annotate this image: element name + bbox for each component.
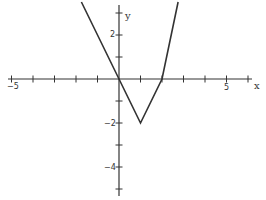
x-axis-label: x xyxy=(254,80,260,91)
y-axis-label: y xyxy=(124,10,131,21)
y-tick-label-2: 2 xyxy=(110,30,115,39)
y-tick-label-minus4: −4 xyxy=(104,163,116,172)
x-tick-label-minus5: −5 xyxy=(7,82,19,91)
x-tick-label-5: 5 xyxy=(224,83,229,92)
chart: x y −5 5 2 −2 −4 xyxy=(0,0,266,200)
y-tick-label-minus2: −2 xyxy=(104,119,116,128)
